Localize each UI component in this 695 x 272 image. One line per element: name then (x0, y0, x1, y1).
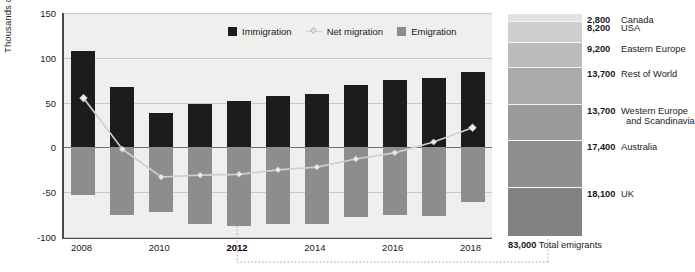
y-axis-title: Thousands of persons (2, 0, 13, 60)
x-axis-tick-label: 2018 (441, 243, 501, 253)
stacked-bar-segment (508, 105, 582, 142)
stacked-bar-segment (508, 68, 582, 105)
x-axis-tick-label: 2008 (52, 243, 112, 253)
stacked-bar-segment-label: 13,700Western Europeand Scandinavia (587, 106, 695, 127)
total-emigrants-value: 83,000 (508, 240, 536, 250)
y-axis-tick-label: -50 (18, 187, 56, 198)
total-emigrants-row: 83,000 Total emigrants (508, 240, 602, 250)
net-migration-marker (469, 124, 477, 132)
segment-value: 13,700 (587, 106, 621, 117)
segment-value: 8,200 (587, 23, 621, 34)
legend-item-emigration: Emigration (397, 26, 456, 37)
net-migration-marker (392, 150, 398, 156)
stacked-bar-segment-label: 17,400Australia (587, 142, 657, 153)
migration-bar-chart: Thousands of persons 150100500-50-100 20… (0, 0, 498, 272)
x-axis-tick-label: 2016 (363, 243, 423, 253)
y-axis-tick-label: 0 (18, 142, 56, 153)
segment-value: 18,100 (587, 189, 621, 200)
y-axis-title-wrap: Thousands of persons (0, 0, 22, 240)
segment-value: 9,200 (587, 44, 621, 55)
y-axis-tick-label: -100 (18, 232, 56, 243)
segment-name: USA (621, 23, 640, 33)
stacked-bar-segment-label: 18,100UK (587, 189, 634, 200)
segment-name: Rest of World (621, 69, 677, 79)
legend-label-immigration: Immigration (242, 26, 292, 37)
net-migration-marker (275, 167, 281, 173)
segment-value: 17,400 (587, 142, 621, 153)
net-migration-polyline (84, 98, 473, 177)
segment-name: Australia (621, 142, 657, 152)
segment-name: Western Europe (621, 106, 688, 116)
net-migration-line (64, 13, 492, 237)
net-migration-marker (353, 156, 359, 162)
y-axis-tick-label: 150 (18, 8, 56, 19)
net-migration-marker (314, 164, 320, 170)
stacked-bar-segment (508, 188, 582, 236)
y-axis-tick-label: 50 (18, 98, 56, 109)
segment-name-line2: and Scandinavia (626, 116, 695, 127)
segment-name: UK (621, 189, 634, 199)
net-migration-marker (197, 172, 203, 178)
gridline (64, 237, 492, 238)
stacked-bar-segment-label: 8,200USA (587, 23, 640, 34)
y-axis-tick-label: 100 (18, 53, 56, 64)
stacked-bar-segment-label: 13,700Rest of World (587, 69, 677, 80)
x-axis-tick-label: 2010 (129, 243, 189, 253)
legend-label-emigration: Emigration (411, 26, 456, 37)
legend-item-net-migration: Net migration (306, 26, 384, 37)
plot-area (62, 13, 492, 239)
net-migration-marker (236, 171, 242, 177)
net-migration-marker (431, 139, 437, 145)
stacked-bar-segment (508, 14, 582, 22)
stacked-bar-segment (508, 43, 582, 68)
chart-legend: Immigration Net migration Emigration (228, 24, 457, 38)
legend-swatch-emigration-icon (397, 27, 406, 36)
segment-value: 13,700 (587, 69, 621, 80)
legend-label-net-migration: Net migration (327, 26, 384, 37)
emigrant-destination-breakdown: 2,800Canada8,200USA9,200Eastern Europe13… (505, 0, 670, 272)
x-axis-tick-label: 2012 (207, 243, 267, 253)
legend-line-marker-icon (306, 27, 322, 36)
stacked-bar-segment (508, 22, 582, 44)
legend-item-immigration: Immigration (228, 26, 292, 37)
segment-name: Eastern Europe (621, 44, 686, 54)
total-emigrants-label: Total emigrants (539, 240, 602, 250)
stacked-bar-segment-label: 9,200Eastern Europe (587, 44, 686, 55)
stacked-bar (508, 14, 582, 236)
stacked-bar-segment (508, 141, 582, 188)
x-axis-tick-label: 2014 (285, 243, 345, 253)
legend-swatch-immigration-icon (228, 27, 237, 36)
